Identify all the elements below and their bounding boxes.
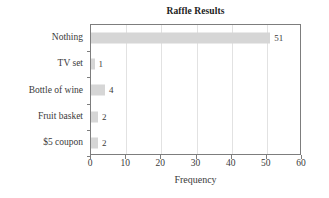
y-axis-label: Fruit basket — [38, 111, 83, 121]
x-axis-tick-label: 40 — [226, 158, 236, 168]
bar — [91, 111, 98, 122]
chart-title: Raffle Results — [90, 6, 301, 16]
bar — [91, 137, 98, 148]
x-axis-tick-label: 50 — [261, 158, 271, 168]
bar-row: 2 — [91, 130, 300, 156]
x-axis-tick-label: 20 — [156, 158, 166, 168]
bar — [91, 85, 105, 96]
bar-row: 1 — [91, 51, 300, 77]
x-axis-tick-label: 10 — [120, 158, 130, 168]
y-axis-label: TV set — [58, 58, 83, 68]
y-axis-tick — [87, 77, 91, 78]
bar-value-label: 2 — [98, 112, 107, 121]
y-axis-tick — [87, 130, 91, 131]
plot-area: 511422 — [90, 24, 301, 155]
bar-value-label: 4 — [105, 86, 114, 95]
y-axis-label: Bottle of wine — [29, 85, 83, 95]
x-axis-tick-label: 30 — [191, 158, 201, 168]
x-axis-tick-label: 60 — [296, 158, 306, 168]
y-axis-label: $5 coupon — [43, 137, 83, 147]
bar-row: 4 — [91, 77, 300, 103]
bar-value-label: 2 — [98, 138, 107, 147]
x-axis-tick-label: 0 — [88, 158, 93, 168]
y-axis-category-labels: NothingTV setBottle of wineFruit basket$… — [0, 24, 90, 155]
x-axis-title: Frequency — [90, 174, 301, 185]
bar-row: 2 — [91, 104, 300, 130]
bar-value-label: 1 — [95, 60, 104, 69]
bar-row: 51 — [91, 25, 300, 51]
y-axis-tick — [87, 104, 91, 105]
y-axis-tick — [87, 51, 91, 52]
raffle-results-bar-chart: Raffle Results NothingTV setBottle of wi… — [0, 0, 329, 198]
bar — [91, 33, 270, 44]
y-axis-label: Nothing — [52, 32, 83, 42]
bar-value-label: 51 — [270, 34, 283, 43]
